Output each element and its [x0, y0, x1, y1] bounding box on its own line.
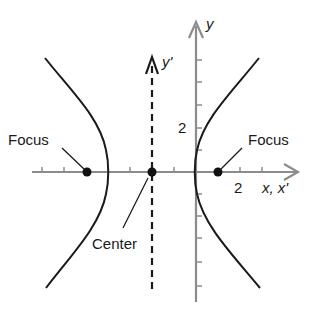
focus-right-point: [214, 168, 223, 177]
y-axis-label: y: [206, 16, 214, 31]
center-point: [148, 168, 157, 177]
x-axis-label: x, x': [262, 180, 288, 195]
y-prime-axis-label: y': [162, 54, 172, 69]
focus-left-label: Focus: [8, 132, 49, 147]
focus-left-leader: [62, 148, 84, 169]
hyperbola-diagram: [0, 0, 312, 310]
focus-left-point: [83, 168, 92, 177]
center-label: Center: [92, 236, 137, 251]
focus-right-label: Focus: [248, 132, 289, 147]
x-axis: [32, 164, 298, 180]
x-tick-label-2: 2: [234, 180, 242, 195]
center-leader: [123, 178, 148, 228]
focus-right-leader: [221, 148, 242, 169]
y-tick-label-2: 2: [178, 120, 186, 135]
